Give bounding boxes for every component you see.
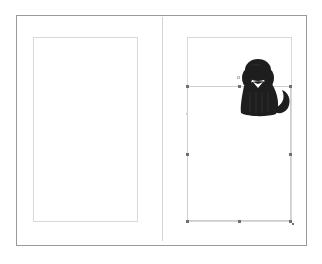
frame-edge-tick bbox=[186, 113, 188, 115]
frame-edge-tick bbox=[290, 194, 292, 196]
dog-icon[interactable] bbox=[238, 58, 292, 118]
handle-middle-left[interactable] bbox=[186, 153, 189, 156]
document-canvas[interactable] bbox=[0, 0, 322, 264]
handle-middle-right[interactable] bbox=[289, 153, 292, 156]
handle-top-left[interactable] bbox=[186, 85, 189, 88]
handle-bottom-center[interactable] bbox=[238, 220, 241, 223]
resize-corner-icon[interactable] bbox=[292, 223, 294, 225]
left-page-margin-guide bbox=[33, 37, 138, 222]
spread-spine bbox=[162, 17, 163, 241]
handle-bottom-left[interactable] bbox=[186, 220, 189, 223]
